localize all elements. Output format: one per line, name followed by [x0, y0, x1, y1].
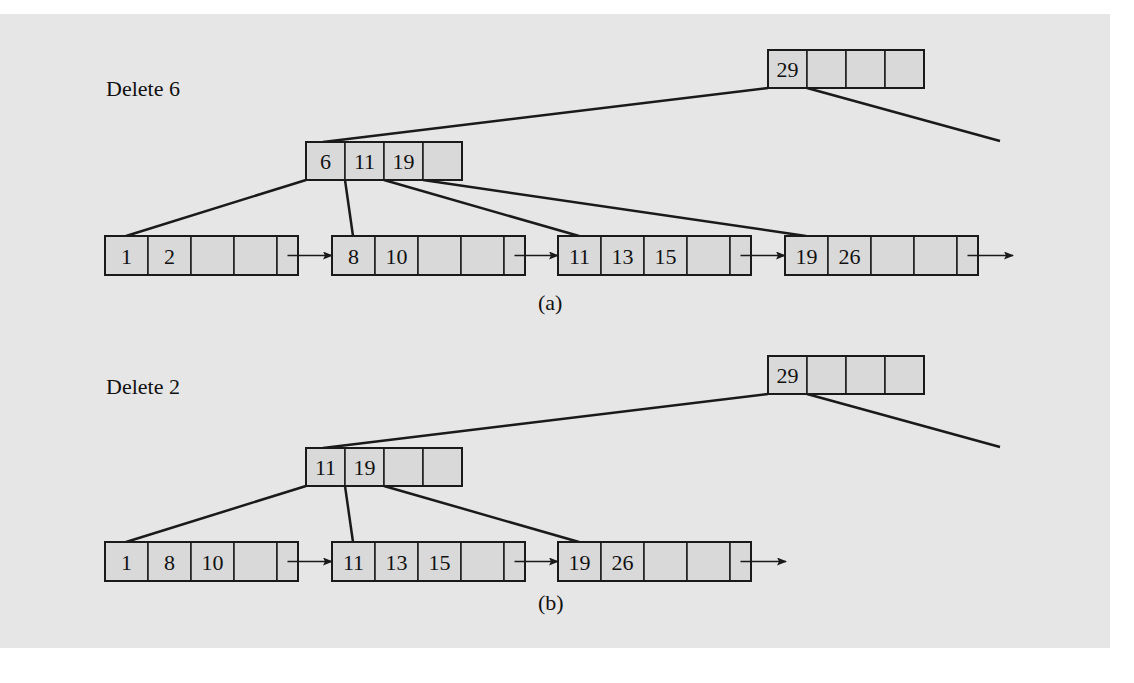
key-cell [384, 448, 423, 486]
key-value: 11 [343, 550, 364, 575]
key-value: 2 [164, 244, 175, 269]
tree-edges [126, 394, 1000, 542]
key-value: 10 [202, 550, 224, 575]
key-value: 6 [320, 149, 331, 174]
key-cell [846, 356, 885, 394]
leaf-node-3: 111315 [558, 236, 751, 275]
key-cell [687, 236, 730, 275]
part-b-caption: (b) [538, 592, 564, 614]
key-value: 8 [348, 244, 359, 269]
leaf-node-1: 12 [105, 236, 298, 275]
internal-node: 61119 [306, 142, 462, 180]
key-value: 15 [429, 550, 451, 575]
key-value: 11 [315, 455, 336, 480]
key-value: 1 [121, 244, 132, 269]
edge-internal-to-leaf [126, 486, 306, 542]
edge-internal-to-leaf [126, 180, 306, 236]
key-value: 19 [796, 244, 818, 269]
key-value: 29 [777, 57, 799, 82]
key-value: 26 [839, 244, 861, 269]
key-cell [807, 50, 846, 88]
leaf-node-2: 810 [332, 236, 525, 275]
key-value: 8 [164, 550, 175, 575]
key-cell [644, 542, 687, 581]
key-cell [461, 542, 504, 581]
key-cell [461, 236, 504, 275]
root-node: 29 [768, 356, 924, 394]
edge-internal-to-leaf [345, 180, 353, 236]
leaf-node-3: 1926 [558, 542, 751, 581]
key-cell [191, 236, 234, 275]
key-value: 19 [569, 550, 591, 575]
bplus-tree-diagram: 2961119128101113151926 29111918101113151… [0, 0, 1134, 683]
edge-internal-to-leaf [384, 486, 579, 542]
key-value: 13 [386, 550, 408, 575]
edge-root-to-right-subtree [807, 88, 1000, 141]
edge-internal-to-leaf [345, 486, 353, 542]
part-a-title: Delete 6 [106, 78, 180, 100]
key-cell [846, 50, 885, 88]
key-cell [871, 236, 914, 275]
internal-node: 1119 [306, 448, 462, 486]
key-value: 1 [121, 550, 132, 575]
part-a-caption: (a) [538, 292, 562, 314]
tree-part-b: 29111918101113151926 [105, 356, 1000, 581]
key-cell [234, 236, 277, 275]
edge-root-to-internal [323, 394, 768, 448]
leaf-node-2: 111315 [332, 542, 525, 581]
key-cell [885, 356, 924, 394]
part-b-title: Delete 2 [106, 376, 180, 398]
leaf-node-4: 1926 [785, 236, 978, 275]
key-value: 15 [655, 244, 677, 269]
key-value: 10 [386, 244, 408, 269]
tree-part-a: 2961119128101113151926 [105, 50, 1013, 275]
key-cell [423, 142, 462, 180]
key-cell [234, 542, 277, 581]
key-cell [423, 448, 462, 486]
key-value: 26 [612, 550, 634, 575]
key-value: 11 [354, 149, 375, 174]
key-cell [885, 50, 924, 88]
key-value: 19 [393, 149, 415, 174]
key-cell [687, 542, 730, 581]
tree-edges [126, 88, 1000, 236]
key-value: 29 [777, 363, 799, 388]
key-cell [914, 236, 957, 275]
edge-root-to-internal [323, 88, 768, 142]
leaf-node-1: 1810 [105, 542, 298, 581]
root-node: 29 [768, 50, 924, 88]
key-value: 13 [612, 244, 634, 269]
key-value: 11 [569, 244, 590, 269]
key-cell [807, 356, 846, 394]
key-value: 19 [354, 455, 376, 480]
edge-root-to-right-subtree [807, 394, 1000, 447]
key-cell [418, 236, 461, 275]
